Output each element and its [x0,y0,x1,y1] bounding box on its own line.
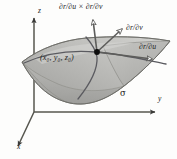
x-axis-label: x [17,143,20,151]
surface-point-marker [94,49,100,55]
z-axis-label: z [38,7,41,15]
y-axis-label: y [158,95,161,103]
surface-sigma-label: σ [120,89,126,98]
x-axis [18,112,34,146]
partial-u-vector-label: ∂r/∂u [139,43,156,51]
partial-v-vector-label: ∂r/∂v [126,24,143,32]
normal-vector-label: ∂r/∂u × ∂r/∂v [59,3,103,11]
diagram-canvas [0,0,177,159]
surface-diagram-figure: ∂r/∂u × ∂r/∂v ∂r/∂v ∂r/∂u (x₀, y₀, z₀) σ… [0,0,177,159]
surface-point-label: (x₀, y₀, z₀) [40,54,74,62]
